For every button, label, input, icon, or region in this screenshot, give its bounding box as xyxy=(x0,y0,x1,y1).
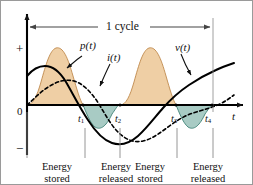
x-axis-label: t xyxy=(232,111,235,123)
current-curve-label: i(t) xyxy=(107,52,120,64)
one-cycle-label: 1 cycle xyxy=(106,20,139,32)
y-axis-negative-label: − xyxy=(16,142,23,156)
region-caption-energy-stored-1: Energy stored xyxy=(29,161,85,185)
voltage-curve-label: v(t) xyxy=(175,42,190,54)
y-axis-positive-label: + xyxy=(16,42,23,56)
power-curve-label: p(t) xyxy=(80,40,96,52)
time-mark-t2: t2 xyxy=(115,114,121,125)
time-mark-t1-sub: 1 xyxy=(81,117,84,124)
region-caption-line2: stored xyxy=(122,173,178,185)
region-caption-energy-stored-2: Energy stored xyxy=(122,161,178,185)
region-caption-line1: Energy xyxy=(178,161,238,173)
region-caption-line2: stored xyxy=(29,173,85,185)
time-mark-t1: t1 xyxy=(78,114,84,125)
time-mark-t2-sub: 2 xyxy=(118,117,121,124)
region-caption-line1: Energy xyxy=(122,161,178,173)
region-caption-line1: Energy xyxy=(29,161,85,173)
time-mark-t4: t4 xyxy=(205,114,211,125)
region-caption-energy-released-2: Energy released xyxy=(178,161,238,185)
time-mark-t4-sub: 4 xyxy=(208,117,211,124)
origin-label: 0 xyxy=(17,106,23,118)
time-mark-t3: t3 xyxy=(171,114,177,125)
region-caption-line2: released xyxy=(178,173,238,185)
time-mark-t3-sub: 3 xyxy=(174,117,177,124)
power-waveform-figure: 1 cycle + − 0 t p(t) i(t) v(t) t1 t2 t3 … xyxy=(0,0,253,185)
